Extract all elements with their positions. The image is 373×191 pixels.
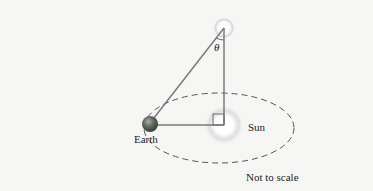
scale-note: Not to scale — [246, 172, 299, 183]
theta-label: θ — [214, 42, 219, 53]
sun-label: Sun — [248, 122, 265, 133]
earth-label: Earth — [134, 134, 158, 145]
earth-icon — [142, 116, 158, 132]
diagram-canvas — [0, 0, 373, 191]
parallax-diagram: θ Earth Sun Not to scale — [0, 0, 373, 191]
